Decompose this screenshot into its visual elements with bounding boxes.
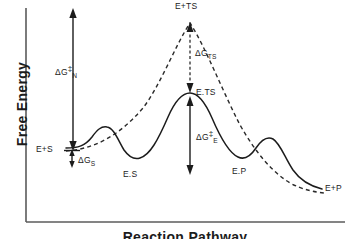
- label-dg-s-delta: ΔG: [78, 155, 91, 165]
- dg-s-arrow-head-bottom: [69, 161, 74, 168]
- label-dg-s: ΔGS: [78, 156, 95, 165]
- label-dg-e-delta: ΔG: [196, 132, 209, 142]
- dg-ts-arrow-head-bottom: [187, 83, 194, 93]
- label-dg-ts: ΔGTS: [195, 49, 217, 58]
- label-e-plus-s: E+S: [36, 145, 53, 154]
- y-axis-title: Free Energy: [14, 54, 30, 154]
- label-dg-ts-sub: TS: [208, 53, 217, 60]
- label-e-ts: E.TS: [196, 88, 216, 97]
- label-dg-e-sub: E: [213, 137, 218, 144]
- label-dg-ts-delta: ΔG: [195, 48, 208, 58]
- label-dg-s-sub: S: [91, 160, 96, 167]
- label-e-plus-ts: E+TS: [175, 2, 197, 11]
- catalysed-curve: [66, 93, 322, 189]
- dg-e-arrow-head-bottom: [187, 165, 194, 175]
- label-dg-n: ΔG‡N: [55, 68, 77, 77]
- label-dg-e: ΔG‡E: [196, 133, 218, 142]
- plot-canvas: [0, 0, 352, 239]
- label-dg-n-delta: ΔG: [55, 67, 68, 77]
- label-e-plus-p: E+P: [325, 184, 342, 193]
- dg-e-arrow-head-top: [187, 96, 194, 106]
- free-energy-diagram-figure: E+TS E.TS E+S E.S E.P E+P ΔG‡N ΔGTS ΔG‡E…: [0, 0, 352, 239]
- label-dg-n-sub: N: [72, 72, 77, 79]
- label-e-s: E.S: [123, 170, 137, 179]
- x-axis-title: Reaction Pathway: [25, 229, 345, 239]
- label-e-p: E.P: [232, 167, 246, 176]
- dg-n-arrow-head-top: [69, 8, 76, 18]
